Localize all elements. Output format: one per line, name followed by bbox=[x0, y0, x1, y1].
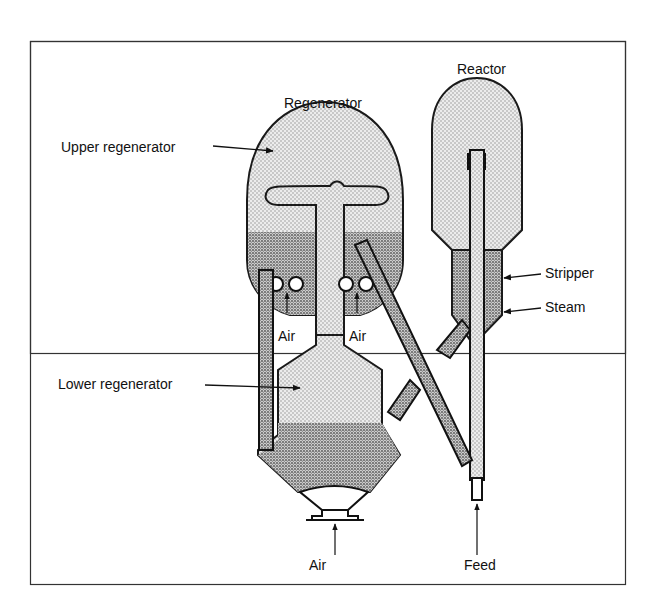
label-steam: Steam bbox=[545, 300, 585, 314]
label-reactor: Reactor bbox=[457, 62, 506, 76]
label-air-bottom: Air bbox=[309, 558, 326, 572]
label-air-right: Air bbox=[349, 329, 366, 343]
lower-transfer-line bbox=[388, 380, 420, 420]
reactor-riser bbox=[470, 150, 484, 480]
label-regenerator: Regenerator bbox=[284, 96, 362, 110]
label-feed: Feed bbox=[464, 558, 496, 572]
label-air-left: Air bbox=[278, 329, 295, 343]
label-stripper: Stripper bbox=[545, 266, 594, 280]
lower-regenerator-vessel bbox=[258, 335, 400, 555]
regenerated-catalyst-line bbox=[437, 320, 470, 358]
regenerator-standpipe bbox=[259, 270, 273, 450]
label-upper-regenerator: Upper regenerator bbox=[61, 140, 175, 154]
label-lower-regenerator: Lower regenerator bbox=[58, 377, 172, 391]
